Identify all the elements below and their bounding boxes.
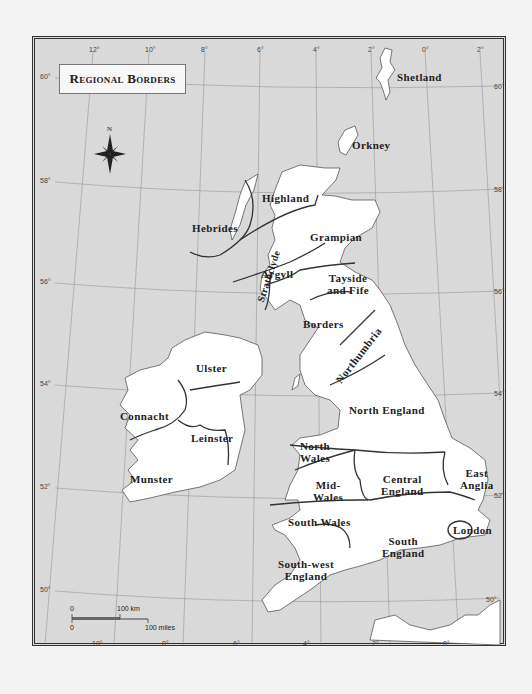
france-coast	[370, 600, 500, 645]
lon-tick-top: 6°	[257, 46, 264, 53]
region-label-highland: Highland	[262, 192, 309, 204]
lat-tick-left: 56°	[40, 278, 51, 285]
region-label-connacht: Connacht	[120, 410, 169, 422]
compass-north-label: N	[107, 123, 112, 135]
scale-100km-label: 100 km	[117, 605, 140, 612]
scale-zero-km: 0	[70, 605, 74, 612]
region-label-hebrides: Hebrides	[192, 222, 238, 234]
lon-tick-top: 4°	[313, 46, 320, 53]
lat-tick-left: 60°	[40, 73, 51, 80]
scale-zero-miles: 0	[70, 624, 74, 631]
lon-tick-bottom: 0°	[443, 640, 450, 647]
scale-100miles-label: 100 miles	[145, 624, 175, 631]
lon-tick-bottom: 6°	[233, 640, 240, 647]
lat-tick-right: 50°	[486, 596, 497, 603]
scale-bar-graphic	[72, 614, 148, 623]
lon-tick-bottom: 8°	[162, 640, 169, 647]
region-label-london: London	[453, 524, 492, 536]
lat-tick-left: 50°	[40, 586, 51, 593]
lat-tick-right: 52°	[494, 492, 505, 499]
lon-tick-bottom: 4°	[303, 640, 310, 647]
lon-tick-bottom: 10°	[92, 640, 103, 647]
compass-rose-icon	[94, 134, 126, 174]
region-label-shetland: Shetland	[397, 71, 442, 83]
map-canvas	[0, 0, 532, 694]
isle-of-man	[292, 374, 300, 390]
lat-tick-left: 52°	[40, 483, 51, 490]
lon-tick-top: 10°	[145, 46, 156, 53]
region-label-tayside-fife: Tayside and Fife	[327, 272, 369, 296]
lat-tick-right: 56°	[494, 288, 505, 295]
lon-tick-top: 0°	[422, 46, 429, 53]
lon-tick-top: 2°	[477, 46, 484, 53]
lat-tick-right: 54°	[494, 390, 505, 397]
region-label-central-england: Central England	[381, 473, 424, 497]
lon-tick-bottom: 2°	[372, 640, 379, 647]
region-label-east-anglia: East Anglia	[460, 467, 494, 491]
region-label-north-wales: North Wales	[300, 440, 330, 464]
region-label-south-england: South England	[382, 535, 425, 559]
lon-tick-top: 8°	[201, 46, 208, 53]
longitude-lines	[45, 52, 500, 645]
region-label-south-west-england: South-west England	[278, 558, 334, 582]
map-title: Regional Borders	[69, 71, 175, 87]
region-label-mid-wales: Mid- Wales	[313, 479, 343, 503]
region-label-south-wales: South Wales	[288, 516, 351, 528]
region-label-north-england: North England	[349, 404, 425, 416]
lat-tick-left: 54°	[40, 380, 51, 387]
region-label-orkney: Orkney	[352, 139, 390, 151]
lat-tick-right: 58°	[494, 186, 505, 193]
region-label-grampian: Grampian	[310, 231, 362, 243]
map-title-box: Regional Borders	[59, 64, 186, 94]
lon-tick-top: 12°	[89, 46, 100, 53]
region-label-munster: Munster	[130, 473, 173, 485]
lat-tick-right: 60°	[494, 83, 505, 90]
lon-tick-top: 2°	[368, 46, 375, 53]
shetland-island	[376, 48, 395, 100]
lat-tick-left: 58°	[40, 177, 51, 184]
region-label-borders: Borders	[303, 318, 344, 330]
land-masses	[120, 48, 500, 645]
region-label-ulster: Ulster	[196, 362, 227, 374]
region-label-leinster: Leinster	[191, 432, 233, 444]
